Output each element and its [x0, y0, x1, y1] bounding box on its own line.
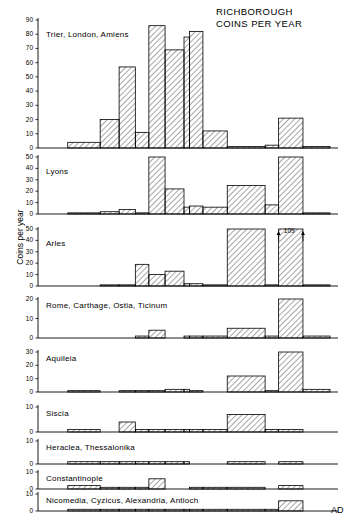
panel-label: Siscia	[46, 409, 69, 418]
y-tick-label: 10	[17, 130, 33, 137]
bar	[68, 142, 100, 148]
bar	[165, 50, 184, 148]
y-tick-label: 30	[17, 176, 33, 183]
panel-label: Arles	[46, 239, 65, 248]
bar	[279, 229, 303, 286]
y-tick-label: 0	[17, 507, 33, 514]
bar-series	[68, 352, 330, 392]
panel-label: Aquileia	[46, 354, 76, 363]
bar	[279, 118, 303, 148]
bar	[189, 31, 203, 148]
bar-series	[68, 157, 330, 214]
y-tick-label: 10	[17, 315, 33, 322]
bar	[227, 415, 265, 433]
y-tick-label: 20	[17, 116, 33, 123]
bar	[149, 157, 165, 214]
y-tick-label: 0	[17, 428, 33, 435]
bar	[135, 132, 149, 148]
panel-label: Nicomedia, Cyzicus, Alexandria, Antioch	[46, 496, 198, 505]
y-tick-label: 10	[17, 490, 33, 497]
y-tick-label: 0	[17, 144, 33, 151]
bar	[227, 186, 265, 215]
panel-label: Rome, Carthage, Ostia, Ticinum	[46, 301, 167, 310]
bar	[189, 206, 203, 214]
y-tick-label: 10	[17, 271, 33, 278]
panel-label: Constantinople	[46, 474, 103, 483]
y-tick-label: 40	[17, 87, 33, 94]
y-tick-label: 0	[17, 460, 33, 467]
panel-label: Lyons	[46, 167, 68, 176]
y-tick-label: 0	[17, 334, 33, 341]
y-tick-label: 10	[17, 437, 33, 444]
y-tick-label: 10	[17, 375, 33, 382]
y-tick-label: 0	[17, 282, 33, 289]
y-tick-label: 0	[17, 210, 33, 217]
bar	[165, 189, 184, 214]
y-tick-label: 10	[17, 403, 33, 410]
panel-label: Trier, London, Amiens	[46, 30, 129, 39]
bar	[135, 264, 149, 286]
bar	[279, 157, 303, 214]
y-tick-label: 10	[17, 199, 33, 206]
y-tick-label: 80	[17, 30, 33, 37]
y-tick-label: 30	[17, 348, 33, 355]
y-tick-label: 20	[17, 295, 33, 302]
bar	[119, 67, 135, 148]
y-tick-label: 90	[17, 16, 33, 23]
y-tick-label: 60	[17, 59, 33, 66]
bar	[184, 37, 189, 148]
bar	[203, 131, 227, 148]
bar-series	[68, 26, 330, 148]
bar	[279, 501, 303, 511]
bar-series	[100, 229, 330, 286]
bar-series	[68, 479, 303, 489]
y-tick-label: 40	[17, 164, 33, 171]
bar	[149, 275, 165, 286]
y-tick-label: 70	[17, 44, 33, 51]
y-tick-label: 10	[17, 468, 33, 475]
bar	[279, 352, 303, 392]
y-tick-label: 20	[17, 187, 33, 194]
bar	[227, 328, 265, 338]
bar	[149, 26, 165, 148]
chart-figure: RICHBOROUGH COINS PER YEAR Coins per yea…	[0, 0, 361, 523]
bar	[227, 229, 265, 286]
y-tick-label: 40	[17, 236, 33, 243]
y-tick-label: 30	[17, 248, 33, 255]
bar	[119, 209, 135, 214]
y-tick-label: 20	[17, 259, 33, 266]
bar	[203, 207, 227, 214]
bar	[149, 330, 165, 338]
bar	[165, 271, 184, 286]
y-tick-label: 50	[17, 225, 33, 232]
y-tick-label: 50	[17, 153, 33, 160]
y-tick-label: 0	[17, 388, 33, 395]
bar-value-annotation: 109	[284, 227, 295, 234]
bar-series	[68, 415, 303, 433]
bar	[119, 422, 135, 432]
bar	[149, 479, 165, 489]
panel-label: Heraclea, Thessalonika	[46, 443, 135, 452]
bar	[279, 486, 303, 489]
bar	[227, 376, 265, 392]
bar	[68, 486, 100, 489]
bar	[265, 205, 279, 214]
y-tick-label: 30	[17, 101, 33, 108]
bar	[100, 120, 119, 148]
y-tick-label: 50	[17, 73, 33, 80]
y-tick-label: 20	[17, 361, 33, 368]
bar	[184, 207, 189, 214]
bar	[279, 299, 303, 338]
